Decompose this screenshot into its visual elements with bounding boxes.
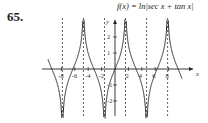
x-tick-label: -6 xyxy=(72,72,78,79)
x-tick-label: -2 xyxy=(99,72,104,79)
function-plot: -8-6-4-22468-2-112xy xyxy=(0,0,208,123)
x-tick-label: 8 xyxy=(166,72,169,79)
y-axis-label: y xyxy=(105,18,109,25)
x-axis-arrow xyxy=(189,67,193,71)
x-tick-label: -4 xyxy=(85,72,91,79)
y-tick-label: 2 xyxy=(107,33,110,40)
x-tick-label: 2 xyxy=(125,72,128,79)
x-axis-label: x xyxy=(195,70,199,77)
y-tick-label: -2 xyxy=(107,97,112,104)
y-tick-label: 1 xyxy=(107,49,110,56)
x-tick-label: -8 xyxy=(58,72,63,79)
y-axis-arrow xyxy=(113,20,117,24)
